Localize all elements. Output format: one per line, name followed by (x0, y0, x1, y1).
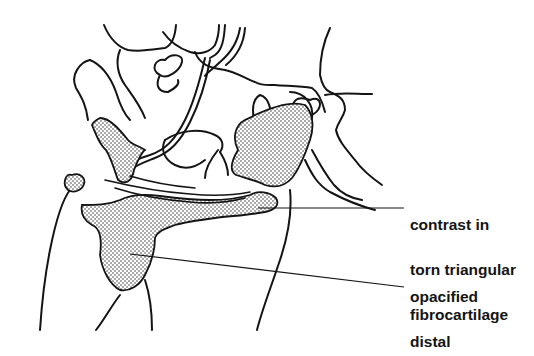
right-bone-upper (320, 28, 382, 185)
radius-shaft-left (96, 295, 120, 330)
stipple-upper-left (92, 118, 145, 182)
stipple-druj (82, 192, 278, 290)
carpal-outline-4 (74, 60, 90, 120)
right-outline-2 (305, 160, 375, 210)
carpal-outline-5 (90, 60, 130, 120)
label-line: opacified (410, 289, 508, 304)
ulna-shaft-left (40, 190, 70, 330)
right-outline (312, 150, 362, 200)
stipple-right-mass (232, 103, 313, 186)
hamate-outline (226, 28, 245, 65)
inner-curve-2 (205, 150, 218, 178)
label-line: distal (410, 334, 508, 349)
label-opacified-druj: opacified distal radioulnar compartment (410, 259, 508, 356)
stipple-ulnar-styloid (65, 174, 85, 191)
tear-line-3 (130, 176, 195, 188)
carpal-outline-3 (210, 25, 225, 58)
right-bone-upper-2 (325, 93, 372, 95)
lunate-inner (155, 55, 183, 92)
inner-curve-1 (220, 152, 228, 175)
carpal-outline-2 (163, 25, 219, 53)
carpal-outline-1 (104, 25, 176, 51)
leader-line-druj (130, 254, 404, 287)
radius-shaft-center (145, 280, 152, 330)
label-line: contrast in (410, 217, 516, 232)
middle-connector (165, 131, 222, 152)
scaphoid-outline (195, 52, 325, 112)
